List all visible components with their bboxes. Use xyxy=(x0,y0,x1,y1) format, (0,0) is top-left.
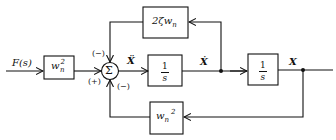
accel-label: Ẍ xyxy=(127,56,135,66)
integrator-1-label: 1 s xyxy=(161,62,169,83)
damping-block-label: 2ζwn xyxy=(152,16,177,26)
sign-left: (+) xyxy=(88,78,101,86)
position-label: X xyxy=(289,57,297,67)
position-junction-dot xyxy=(301,68,305,72)
stiffness-block-label: wn2 xyxy=(156,111,174,121)
input-label: F(s) xyxy=(12,58,32,68)
sigma-symbol: Σ xyxy=(105,65,113,76)
sign-top: (−) xyxy=(92,50,105,58)
input-gain-label: w2n xyxy=(51,61,69,71)
velocity-junction-dot xyxy=(219,69,223,73)
block-diagram: F(s) w2n Σ (−) (+) (−) Ẍ 1 s Ẋ 1 s X 2ζw… xyxy=(0,0,336,140)
integrator-2-label: 1 s xyxy=(259,61,267,82)
sign-bottom: (−) xyxy=(117,83,130,91)
velocity-label: Ẋ xyxy=(200,57,208,67)
